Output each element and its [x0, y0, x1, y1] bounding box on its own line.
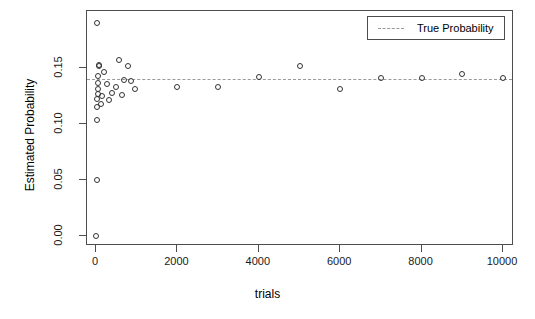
- x-tick-mark: [421, 245, 422, 252]
- data-point: [94, 177, 100, 183]
- legend-dashed-line-swatch: [378, 28, 404, 29]
- x-tick-label: 8000: [408, 255, 432, 267]
- scatter-plot-figure: Estimated Probability 0.000.050.100.15 0…: [0, 0, 535, 319]
- data-point: [459, 71, 465, 77]
- data-point: [174, 84, 180, 90]
- x-tick-mark: [95, 245, 96, 252]
- y-tick-label: 0.05: [52, 162, 64, 196]
- data-point: [96, 62, 102, 68]
- data-point: [106, 97, 112, 103]
- x-tick-label: 2000: [164, 255, 188, 267]
- y-tick-mark: [79, 179, 86, 180]
- data-point: [95, 80, 101, 86]
- y-tick-mark: [79, 235, 86, 236]
- data-point: [128, 78, 134, 84]
- y-axis-title: Estimated Probability: [23, 55, 37, 215]
- data-point: [125, 63, 131, 69]
- x-tick-mark: [176, 245, 177, 252]
- data-point: [378, 75, 384, 81]
- data-point: [419, 75, 425, 81]
- data-point: [113, 84, 119, 90]
- data-point: [132, 86, 138, 92]
- data-point: [98, 101, 104, 107]
- x-tick-label: 4000: [246, 255, 270, 267]
- y-tick-mark: [79, 67, 86, 68]
- true-probability-reference-line: [87, 79, 512, 80]
- x-tick-mark: [339, 245, 340, 252]
- x-tick-mark: [258, 245, 259, 252]
- x-tick-label: 0: [92, 255, 98, 267]
- plot-area: [87, 11, 512, 244]
- data-point: [337, 86, 343, 92]
- data-point: [256, 74, 262, 80]
- data-point: [95, 73, 101, 79]
- x-tick-label: 10000: [487, 255, 518, 267]
- data-point: [93, 233, 99, 239]
- x-tick-label: 6000: [327, 255, 351, 267]
- y-tick-label: 0.15: [52, 50, 64, 84]
- y-tick-mark: [79, 123, 86, 124]
- data-point: [121, 77, 127, 83]
- data-point: [94, 20, 100, 26]
- data-point: [109, 90, 115, 96]
- data-point: [94, 117, 100, 123]
- data-point: [119, 92, 125, 98]
- data-point: [215, 84, 221, 90]
- data-point: [297, 63, 303, 69]
- x-tick-mark: [502, 245, 503, 252]
- data-point: [101, 69, 107, 75]
- y-tick-label: 0.00: [52, 218, 64, 252]
- data-point: [104, 81, 110, 87]
- data-point: [99, 93, 105, 99]
- data-point: [116, 57, 122, 63]
- plot-area-frame: [86, 10, 513, 245]
- y-tick-label: 0.10: [52, 106, 64, 140]
- legend-label-true-probability: True Probability: [417, 22, 494, 34]
- x-axis-title: trials: [0, 287, 535, 301]
- legend: True Probability: [367, 16, 505, 40]
